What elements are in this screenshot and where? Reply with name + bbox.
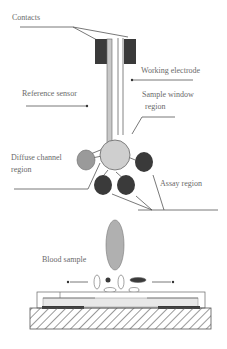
sample-window-leader: [132, 117, 175, 134]
label-diffuse-channel: Diffuse channel: [11, 153, 63, 162]
label-sample-window: Sample window: [142, 90, 194, 99]
assay-region-bottom-right: [117, 175, 135, 195]
diffuse-channel-region: [77, 150, 95, 170]
label-assay-region: Assay region: [160, 179, 202, 188]
label-working-electrode: Working electrode: [141, 66, 201, 75]
contact-pad-right: [124, 39, 136, 64]
assay-region-bottom-left: [94, 175, 112, 195]
blood-cells: [94, 275, 146, 293]
label-sample-window-region: region: [145, 102, 165, 111]
contacts-leader-lines: [20, 27, 128, 40]
label-reference-sensor: Reference sensor: [22, 89, 77, 98]
blood-sample-droplet: [106, 220, 124, 270]
label-contacts: Contacts: [12, 13, 40, 22]
reference-electrode-strip: [107, 39, 112, 147]
hatched-substrate: [30, 308, 211, 329]
assay-region-right: [135, 152, 153, 172]
sample-window-region: [100, 140, 130, 170]
biosensor-diagram: Contacts Working electrode Reference sen…: [0, 0, 227, 349]
label-diffuse-channel-region: region: [11, 165, 31, 174]
contact-pad-left: [95, 39, 107, 64]
strip-cross-section: [37, 292, 205, 309]
label-blood-sample: Blood sample: [42, 255, 87, 264]
